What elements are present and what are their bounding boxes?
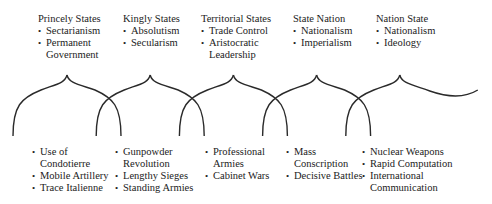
- bullet-list: Gunpowder Revolution Lengthy Sieges Stan…: [115, 146, 193, 194]
- bullet-list: Nuclear Weapons Rapid Computation Intern…: [362, 146, 453, 194]
- bottom-block-1: Use of Condotierre Mobile Artillery Trac…: [32, 146, 109, 194]
- list-item: International Communication: [362, 170, 453, 194]
- arch-right-curve: [233, 75, 287, 136]
- arch-left-curve: [346, 75, 400, 136]
- arch-right-curve: [150, 75, 204, 136]
- arch-right-curve: [67, 75, 121, 136]
- arch-left-curve: [179, 75, 233, 136]
- arch-left-curve: [263, 75, 317, 136]
- list-item: Lengthy Sieges: [115, 170, 193, 182]
- list-item: Mass Conscription: [286, 146, 363, 170]
- list-item: Rapid Computation: [362, 158, 453, 170]
- arch-left-curve: [13, 75, 67, 136]
- bottom-block-5: Nuclear Weapons Rapid Computation Intern…: [362, 146, 453, 194]
- bullet-list: Use of Condotierre Mobile Artillery Trac…: [32, 146, 109, 194]
- list-item: Cabinet Wars: [205, 170, 269, 182]
- list-item: Gunpowder Revolution: [115, 146, 193, 170]
- bottom-block-4: Mass Conscription Decisive Battles: [286, 146, 363, 182]
- list-item: Trace Italienne: [32, 182, 109, 194]
- list-item: Use of Condotierre: [32, 146, 109, 170]
- list-item: Mobile Artillery: [32, 170, 109, 182]
- list-item: Nuclear Weapons: [362, 146, 453, 158]
- list-item: Standing Armies: [115, 182, 193, 194]
- bullet-list: Mass Conscription Decisive Battles: [286, 146, 363, 182]
- bullet-list: Professional Armies Cabinet Wars: [205, 146, 269, 182]
- bottom-block-2: Gunpowder Revolution Lengthy Sieges Stan…: [115, 146, 193, 194]
- arch-left-curve: [96, 75, 150, 136]
- list-item: Professional Armies: [205, 146, 269, 170]
- arch-right-curve: [317, 75, 371, 136]
- list-item: Decisive Battles: [286, 170, 363, 182]
- bottom-block-3: Professional Armies Cabinet Wars: [205, 146, 269, 182]
- arch-right-curve: [400, 75, 478, 96]
